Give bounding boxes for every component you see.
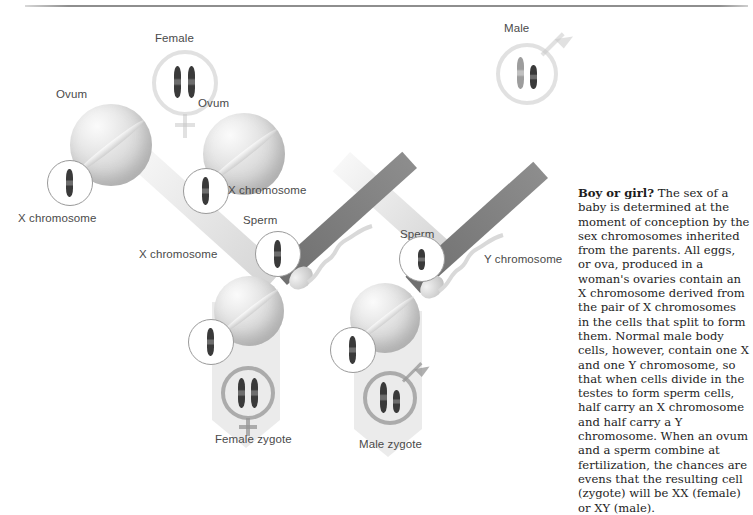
top-divider-rule (25, 5, 748, 7)
label-female-zygote: Female zygote (215, 433, 292, 445)
figure-caption: Boy or girl? The sex of a baby is determ… (578, 186, 750, 515)
male-parent-x-chromosome (517, 57, 524, 89)
female-zygote-symbol-bar (239, 425, 257, 429)
sperm-right-chromosome-callout (399, 236, 445, 282)
ovum-left-x-chromosome (66, 169, 73, 197)
ovum-right-x-chromosome (202, 177, 209, 205)
label-female-symbol: Female (155, 32, 194, 44)
male-zygote-chromosome-callout (330, 327, 376, 373)
label-x-chromosome-ovum-left: X chromosome (18, 212, 97, 224)
label-ovum-right: Ovum (198, 97, 229, 109)
male-zygote-symbol-ring (363, 371, 417, 425)
male-zygote-y-chromosome (393, 390, 400, 413)
male-symbol (496, 43, 558, 105)
label-ovum-left: Ovum (56, 88, 87, 100)
caption-body: The sex of a baby is determined at the m… (578, 186, 749, 515)
ovum-left-chromosome-callout (47, 160, 93, 206)
caption-lead: Boy or girl? (578, 186, 654, 200)
male-zygote-x-chromosome (380, 382, 387, 413)
label-x-chromosome-sperm: X chromosome (139, 248, 218, 260)
label-male-zygote: Male zygote (359, 438, 422, 450)
label-y-chromosome-sperm: Y chromosome (484, 253, 562, 265)
label-x-chromosome-ovum-right: X chromosome (228, 184, 307, 196)
female-parent-x-chromosome-1 (174, 66, 181, 98)
male-symbol-ring (496, 43, 558, 105)
female-zygote-symbol-ring (221, 366, 275, 420)
sperm-left-x-chromosome (274, 240, 281, 268)
female-symbol-bar (175, 123, 195, 127)
female-zygote-x-chromosome-2 (251, 378, 258, 408)
label-male-symbol: Male (504, 22, 529, 34)
female-zygote-symbol (221, 366, 275, 420)
male-zygote-symbol (363, 371, 417, 425)
sperm-right-y-chromosome (418, 249, 425, 270)
male-parent-y-chromosome (530, 65, 537, 89)
female-zygote-ovum-x-chromosome (207, 328, 214, 356)
sperm-left-tail (300, 222, 380, 292)
female-zygote-x-chromosome-1 (238, 378, 245, 408)
male-zygote-ovum-x-chromosome (349, 336, 356, 364)
male-symbol-arrow-head (555, 29, 575, 49)
ovum-right-chromosome-callout (183, 168, 229, 214)
sperm-left-chromosome-callout (255, 231, 301, 277)
female-zygote-chromosome-callout (188, 319, 234, 365)
label-sperm-left: Sperm (243, 214, 277, 226)
female-parent-x-chromosome-2 (188, 66, 195, 98)
